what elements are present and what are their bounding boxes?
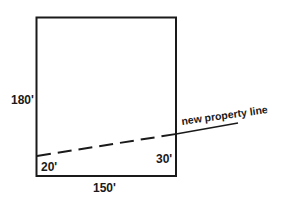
bottom-side-length-label: 150' (93, 181, 116, 195)
property-line-label: new property line (181, 103, 269, 127)
left-side-length-label: 180' (11, 93, 34, 107)
property-lot-diagram: 180' 150' 20' 30' new property line (0, 0, 283, 204)
right-offset-label: 30' (156, 152, 172, 166)
left-offset-label: 20' (41, 160, 57, 174)
